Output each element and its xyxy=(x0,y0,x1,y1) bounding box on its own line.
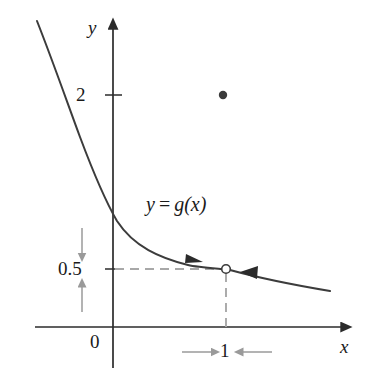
y-tick-label-2: 2 xyxy=(76,85,86,104)
y-tick-label-0point5: 0.5 xyxy=(58,259,82,278)
special-point-group xyxy=(219,91,231,274)
dashed-guide-group xyxy=(115,269,226,327)
hole-open-circle-point xyxy=(222,265,231,274)
curve-equation-label: y = g(x) xyxy=(146,194,206,214)
graph-canvas xyxy=(0,0,370,381)
function-curve xyxy=(37,21,226,270)
limit-graph-figure: y x 2 0.5 0 1 y = g(x) xyxy=(0,0,370,381)
x-axis-label: x xyxy=(340,337,348,356)
curve-arrow-from-left-icon xyxy=(185,254,203,263)
origin-label: 0 xyxy=(90,332,100,351)
x-tick-label-1: 1 xyxy=(220,341,230,360)
equation-rhs: g(x) xyxy=(174,193,206,215)
y-axis-label: y xyxy=(88,18,96,37)
filled-dot-point xyxy=(219,91,227,99)
equation-lhs: y xyxy=(146,193,155,215)
curve-arrow-from-right-icon xyxy=(240,266,258,279)
function-curve-group xyxy=(37,21,330,291)
equation-operator: = xyxy=(155,193,174,215)
